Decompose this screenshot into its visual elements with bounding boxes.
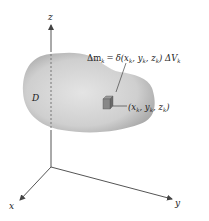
solid-region-d (23, 53, 155, 133)
region-label: D (31, 93, 39, 103)
mass-element-formula: Δmk=δ(xk, yk, zk) ΔVk (87, 53, 181, 64)
x-axis-label: x (9, 201, 14, 211)
y-axis (51, 167, 172, 199)
triple-integral-mass-diagram: z x y D Δmk=δ(xk, yk, zk) ΔVk (xk, yk, z… (0, 0, 209, 221)
z-axis-label: z (47, 12, 53, 22)
y-axis-label: y (174, 198, 181, 208)
point-coordinates-label: (xk, yk, zk) (128, 102, 170, 113)
x-axis (20, 167, 51, 200)
volume-element-cube (103, 96, 113, 109)
